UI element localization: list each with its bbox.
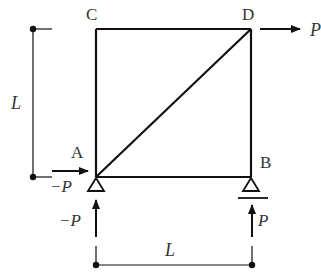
truss-diagram: C D A B P −P −P P L L [0,0,321,278]
roller-support-B-icon [243,178,259,191]
node-label-D: D [242,5,254,24]
load-label-A-horizontal: −P [50,177,72,196]
dimension-height [30,26,52,180]
load-label-D: P [309,20,321,40]
load-label-A-vertical: −P [59,211,81,230]
node-label-A: A [71,143,84,162]
truss-members [96,29,251,177]
dimension-label-height: L [10,93,21,113]
node-label-B: B [260,153,271,172]
dimension-label-width: L [164,240,175,260]
node-label-C: C [86,5,97,24]
load-label-B-vertical: P [257,211,268,230]
pin-support-A-icon [88,178,104,191]
member-AD [96,29,251,177]
